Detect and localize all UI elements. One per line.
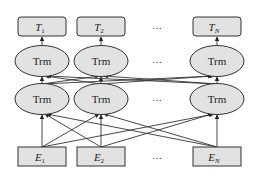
input-ellipsis: … — [152, 150, 162, 161]
trm-node-top-1: Trm — [15, 46, 69, 77]
bottom-layer-ellipsis: … — [152, 92, 162, 103]
upper-connections — [42, 76, 217, 84]
output-node-t2: T2 — [77, 17, 125, 36]
transformer-layer-top: Trm Trm … Trm — [15, 46, 244, 77]
input-row: E1 E2 … EN — [18, 147, 241, 166]
output-row: T1 T2 … TN — [18, 17, 241, 36]
svg-text:Trm: Trm — [92, 93, 111, 105]
input-node-e1: E1 — [18, 147, 66, 166]
trm-node-top-2: Trm — [74, 46, 128, 77]
lower-connections — [42, 114, 217, 147]
output-connections — [42, 37, 217, 45]
svg-text:Trm: Trm — [33, 93, 52, 105]
svg-text:Trm: Trm — [208, 55, 227, 67]
top-layer-ellipsis: … — [152, 54, 162, 65]
input-node-en: EN — [193, 147, 241, 166]
bert-diagram: T1 T2 … TN Trm Trm … Trm Trm — [0, 0, 257, 177]
svg-text:Trm: Trm — [92, 55, 111, 67]
output-node-t1: T1 — [18, 17, 66, 36]
transformer-layer-bottom: Trm Trm … Trm — [15, 84, 244, 115]
trm-node-top-n: Trm — [190, 46, 244, 77]
svg-text:Trm: Trm — [208, 93, 227, 105]
trm-node-bottom-2: Trm — [74, 84, 128, 115]
input-node-e2: E2 — [77, 147, 125, 166]
trm-node-bottom-n: Trm — [190, 84, 244, 115]
output-ellipsis: … — [152, 20, 162, 31]
svg-text:Trm: Trm — [33, 55, 52, 67]
trm-node-bottom-1: Trm — [15, 84, 69, 115]
output-node-tn: TN — [193, 17, 241, 36]
